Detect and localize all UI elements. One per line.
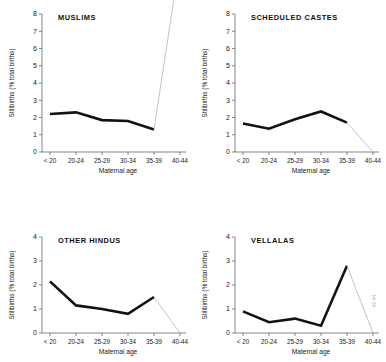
x-axis-title: Maternal age: [292, 167, 331, 175]
x-tick-label: 20-24: [261, 338, 278, 345]
series-line-observed: [243, 111, 347, 128]
panel-title: SCHEDULED CASTES: [251, 13, 338, 22]
x-tick-label: < 20: [237, 157, 250, 164]
y-tick-label: 0: [226, 329, 230, 336]
x-tick-label: 25-29: [287, 157, 304, 164]
y-tick-label: 3: [226, 257, 230, 264]
y-tick-label: 8: [33, 10, 37, 17]
y-tick-label: 1: [33, 131, 37, 138]
x-tick-label: 35-39: [146, 338, 163, 345]
y-tick-label: 4: [33, 233, 37, 240]
x-axis-title: Maternal age: [99, 348, 138, 356]
panel-title: MUSLIMS: [58, 13, 96, 22]
panel-plot-area: 012345678< 2020-2425-2930-3435-3940-44MU…: [0, 0, 193, 181]
y-tick-label: 6: [33, 45, 37, 52]
y-tick-label: 4: [33, 79, 37, 86]
panel-title: VELLALAS: [251, 236, 294, 245]
x-tick-label: 25-29: [287, 338, 304, 345]
y-axis-title: Stillbirths (% total births): [201, 251, 209, 320]
panel-plot-area: 01234< 2020-2425-2930-3435-3940-44VELLAL…: [193, 223, 386, 362]
y-tick-label: 8: [226, 10, 230, 17]
series-line-observed: [243, 266, 347, 326]
y-tick-label: 7: [226, 28, 230, 35]
chart-panel-vellalas: 01234< 2020-2425-2930-3435-3940-44VELLAL…: [193, 223, 386, 362]
x-tick-label: < 20: [44, 338, 57, 345]
x-tick-label: 20-24: [261, 157, 278, 164]
y-tick-label: 7: [33, 28, 37, 35]
y-tick-label: 6: [226, 45, 230, 52]
y-tick-label: 1: [226, 305, 230, 312]
x-tick-label: 40-44: [172, 157, 189, 164]
x-tick-label: 20-24: [68, 338, 85, 345]
y-tick-label: 2: [226, 281, 230, 288]
x-tick-label: 40-44: [172, 338, 189, 345]
series-line-extrapolated: [154, 0, 180, 130]
panel-plot-area: 012345678< 2020-2425-2930-3435-3940-44SC…: [193, 0, 386, 181]
y-tick-label: 0: [226, 148, 230, 155]
x-tick-label: 40-44: [365, 157, 382, 164]
x-tick-label: < 20: [44, 157, 57, 164]
y-tick-label: 2: [226, 114, 230, 121]
y-tick-label: 1: [33, 305, 37, 312]
chart-panel-muslims: 012345678< 2020-2425-2930-3435-3940-44MU…: [0, 0, 193, 181]
x-tick-label: 25-29: [94, 157, 111, 164]
x-tick-label: 35-39: [339, 338, 356, 345]
y-tick-label: 0: [33, 329, 37, 336]
y-tick-label: 3: [33, 97, 37, 104]
x-axis-title: Maternal age: [292, 348, 331, 356]
x-tick-label: 30-34: [120, 157, 137, 164]
chart-panel-scheduled-castes: 012345678< 2020-2425-2930-3435-3940-44SC…: [193, 0, 386, 181]
x-tick-label: 35-39: [146, 157, 163, 164]
x-tick-label: 30-34: [313, 157, 330, 164]
panel-title: OTHER HINDUS: [58, 236, 121, 245]
y-tick-label: 1: [226, 131, 230, 138]
faint-axis-note: 40-44: [371, 294, 377, 307]
y-axis-title: Stillbirths (% total births): [8, 49, 16, 118]
series-line-extrapolated: [154, 297, 180, 333]
y-tick-label: 3: [33, 257, 37, 264]
chart-panel-other-hindus: 01234< 2020-2425-2930-3435-3940-44OTHER …: [0, 223, 193, 362]
series-line-extrapolated: [347, 266, 373, 333]
series-line-observed: [50, 281, 154, 313]
x-axis-title: Maternal age: [99, 167, 138, 175]
x-tick-label: 35-39: [339, 157, 356, 164]
y-tick-label: 0: [33, 148, 37, 155]
y-tick-label: 5: [33, 62, 37, 69]
x-tick-label: < 20: [237, 338, 250, 345]
y-tick-label: 2: [33, 114, 37, 121]
y-tick-label: 4: [226, 233, 230, 240]
series-line-extrapolated: [347, 123, 373, 152]
y-axis-title: Stillbirths (% total births): [8, 251, 16, 320]
y-axis-title: Stillbirths (% total births): [201, 49, 209, 118]
x-tick-label: 30-34: [120, 338, 137, 345]
stillbirths-by-maternal-age-figure: 012345678< 2020-2425-2930-3435-3940-44MU…: [0, 0, 386, 362]
y-tick-label: 4: [226, 79, 230, 86]
y-tick-label: 3: [226, 97, 230, 104]
x-tick-label: 25-29: [94, 338, 111, 345]
y-tick-label: 5: [226, 62, 230, 69]
series-line-observed: [50, 112, 154, 129]
x-tick-label: 30-34: [313, 338, 330, 345]
panel-plot-area: 01234< 2020-2425-2930-3435-3940-44OTHER …: [0, 223, 193, 362]
x-tick-label: 40-44: [365, 338, 382, 345]
x-tick-label: 20-24: [68, 157, 85, 164]
y-tick-label: 2: [33, 281, 37, 288]
